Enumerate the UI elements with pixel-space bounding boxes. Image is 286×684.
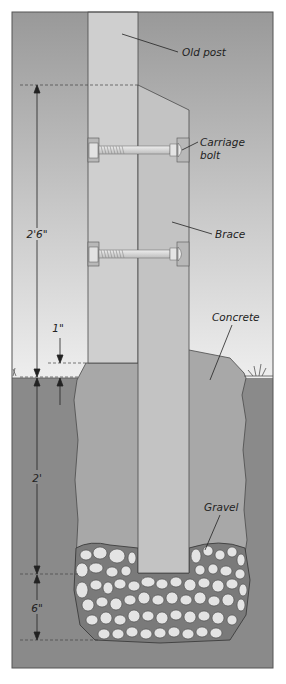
post-repair-diagram: 2'6" 1" 2' 6" Old post Carriage bolt Bra… [0,0,286,684]
label-carriage-bolt-line2: bolt [200,149,221,161]
label-gravel: Gravel [204,501,239,513]
dimension-concrete-above-ground: 1" [52,322,64,334]
label-carriage-bolt-line1: Carriage [200,136,245,148]
dimension-brace-height: 2'6" [26,228,47,240]
label-old-post: Old post [182,46,227,58]
dimension-concrete-depth: 2' [32,472,42,484]
label-concrete: Concrete [212,311,260,323]
label-brace: Brace [215,228,245,240]
old-post [88,12,138,363]
dimension-gravel-depth: 6" [31,602,43,614]
